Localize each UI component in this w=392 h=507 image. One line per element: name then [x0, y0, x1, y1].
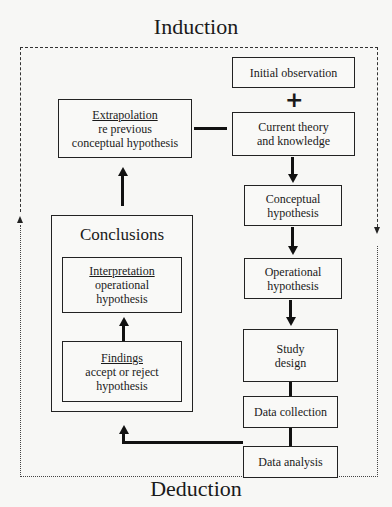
initial-observation-text: Initial observation — [250, 66, 338, 80]
arrow-shaft — [291, 227, 294, 247]
arrow-shaft — [122, 441, 243, 444]
outer-loop-right-dashed — [377, 47, 378, 227]
operational-hypothesis-box: Operational hypothesis — [244, 258, 342, 299]
findings-line-1: accept or reject — [85, 365, 158, 379]
arrow-shaft — [121, 176, 124, 206]
arrow-shaft — [122, 433, 125, 444]
arrow-up-icon — [118, 167, 128, 176]
data-analysis-text: Data analysis — [258, 455, 322, 469]
minus-connector — [194, 127, 227, 130]
deduction-arrow-down-icon — [374, 227, 380, 234]
outer-loop-right-dotted — [377, 246, 378, 477]
arrow-shaft — [289, 300, 292, 318]
outer-loop-left-dotted — [20, 225, 21, 477]
outer-loop-left-dashed — [20, 47, 21, 212]
extrapolation-line-2: conceptual hypothesis — [72, 136, 178, 150]
conceptual-hypothesis-box: Conceptual hypothesis — [244, 185, 342, 226]
findings-box: Findings accept or reject hypothesis — [62, 341, 182, 402]
arrow-down-icon — [286, 317, 296, 326]
interpretation-heading: Interpretation — [89, 264, 154, 278]
operational-hypothesis-line-1: Operational — [265, 265, 322, 279]
current-theory-line-1: Current theory — [258, 120, 328, 134]
interpretation-line-1: operational — [95, 278, 149, 292]
operational-hypothesis-line-2: hypothesis — [267, 279, 318, 293]
arrow-down-icon — [288, 246, 298, 255]
conceptual-hypothesis-line-1: Conceptual — [266, 192, 321, 206]
extrapolation-line-1: re previous — [98, 122, 152, 136]
current-theory-box: Current theory and knowledge — [232, 112, 355, 156]
interpretation-box: Interpretation operational hypothesis — [62, 257, 182, 313]
study-design-box: Study design — [243, 329, 338, 382]
arrow-shaft — [291, 157, 294, 175]
deduction-label: Deduction — [0, 476, 392, 502]
arrow-up-icon — [119, 317, 129, 326]
study-design-line-1: Study — [276, 342, 304, 356]
data-analysis-box: Data analysis — [243, 446, 338, 478]
data-collection-text: Data collection — [254, 405, 327, 419]
study-design-line-2: design — [275, 356, 306, 370]
extrapolation-heading: Extrapolation — [92, 108, 157, 122]
current-theory-line-2: and knowledge — [257, 134, 330, 148]
induction-label: Induction — [0, 14, 392, 40]
data-collection-box: Data collection — [243, 396, 338, 428]
conceptual-hypothesis-line-2: hypothesis — [267, 206, 318, 220]
findings-line-2: hypothesis — [96, 379, 147, 393]
arrow-up-icon — [119, 425, 129, 434]
interpretation-line-2: hypothesis — [96, 292, 147, 306]
outer-loop-top-dashed — [20, 47, 378, 48]
arrow-down-icon — [288, 174, 298, 183]
conclusions-title: Conclusions — [52, 228, 192, 242]
connector-line — [289, 428, 292, 447]
extrapolation-box: Extrapolation re previous conceptual hyp… — [58, 99, 192, 158]
plus-icon: + — [285, 91, 303, 109]
induction-arrow-up-icon — [17, 216, 23, 223]
connector-line — [289, 382, 292, 397]
initial-observation-box: Initial observation — [232, 57, 355, 88]
findings-heading: Findings — [101, 351, 143, 365]
arrow-shaft — [122, 326, 125, 341]
